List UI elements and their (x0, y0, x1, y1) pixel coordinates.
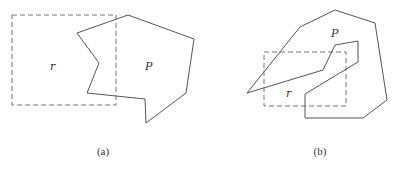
region-label: r (50, 60, 56, 73)
region-r-dashed-rect (12, 15, 116, 105)
figure-b: r P (b) (247, 10, 387, 158)
polygon-label: P (330, 27, 339, 40)
diagram-canvas: r P (a) r P (b) (0, 0, 399, 170)
polygon-label: P (144, 60, 153, 73)
caption-b: (b) (314, 145, 327, 158)
figure-a: r P (a) (12, 15, 194, 158)
polygon-p (77, 15, 194, 123)
polygon-p (247, 10, 387, 118)
caption-a: (a) (97, 145, 110, 158)
region-label: r (286, 87, 292, 100)
